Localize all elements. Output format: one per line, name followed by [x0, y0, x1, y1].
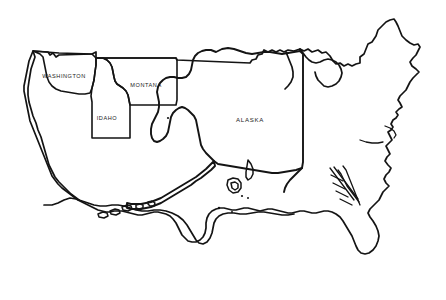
label-idaho: IDAHO [97, 115, 118, 121]
label-washington: WASHINGTON [42, 73, 86, 79]
island-speck-4 [167, 117, 169, 119]
label-montana: MONTANA [130, 82, 161, 88]
island-speck-1 [218, 207, 220, 209]
island-speck-3 [247, 197, 249, 199]
us-outline-map: WASHINGTON MONTANA IDAHO ALASKA [0, 0, 446, 300]
island-speck-2 [241, 195, 243, 197]
map-background [0, 0, 446, 300]
map-canvas: WASHINGTON MONTANA IDAHO ALASKA [0, 0, 446, 300]
label-alaska: ALASKA [236, 116, 264, 123]
island-speck-5 [231, 211, 233, 213]
